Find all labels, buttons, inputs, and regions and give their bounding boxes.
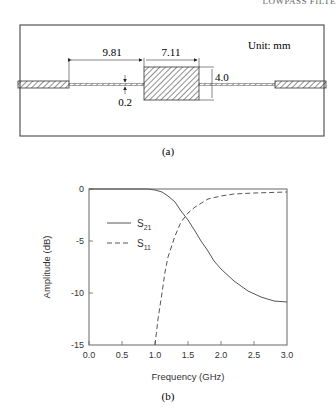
s-parameter-chart: 0.0 0.5 1.0 1.5 2.0 2.5 3.0 0 -5 -10 -15…	[0, 170, 336, 411]
y-tick-label: 0	[79, 184, 84, 194]
feed-line-left	[18, 81, 69, 88]
y-tick-label: -10	[71, 288, 84, 298]
high-impedance-line-right	[199, 84, 275, 86]
x-tick-label: 3.0	[281, 350, 294, 360]
line-length-label: 9.81	[102, 46, 121, 58]
layout-diagram: 9.81 7.11 4.0 0.2 Unit: mm (a)	[0, 0, 336, 170]
patch-width-label: 4.0	[215, 71, 229, 83]
x-tick-label: 1.5	[182, 350, 195, 360]
x-tick-label: 2.0	[215, 350, 228, 360]
y-tick-label: -5	[76, 236, 84, 246]
x-axis-label: Frequency (GHz)	[152, 371, 225, 382]
y-axis-label: Amplitude (dB)	[41, 236, 52, 299]
x-tick-label: 0.0	[83, 350, 96, 360]
legend-s21-label: S21	[137, 218, 152, 231]
x-tick-label: 2.5	[248, 350, 261, 360]
x-tick-label: 1.0	[149, 350, 162, 360]
x-ticks	[89, 189, 254, 345]
high-impedance-line-left	[69, 84, 144, 86]
caption-b: (b)	[162, 390, 175, 403]
y-tick-label: -15	[71, 340, 84, 350]
caption-a: (a)	[162, 145, 175, 158]
s21-curve	[89, 189, 287, 302]
low-impedance-patch	[144, 67, 199, 100]
patch-length-label: 7.11	[162, 46, 181, 58]
unit-label: Unit: mm	[248, 39, 291, 51]
legend-s11-label: S11	[137, 238, 151, 251]
x-tick-label: 0.5	[116, 350, 129, 360]
feed-line-right	[275, 81, 326, 88]
line-width-label: 0.2	[118, 96, 132, 108]
